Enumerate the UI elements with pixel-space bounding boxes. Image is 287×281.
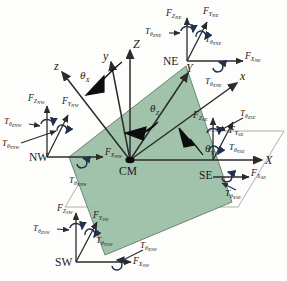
theta-X-label: θX: [80, 69, 90, 83]
torque-T_thetaX_NE-arc: [213, 62, 223, 72]
global-axis-X-label: X: [264, 153, 273, 167]
corner-label-NW: NW: [29, 151, 48, 163]
corner-label-SW: SW: [55, 256, 72, 268]
body-axis-y-label: y: [102, 49, 109, 63]
torque-T_thetaZ_SW-leader: [57, 229, 69, 230]
torque-T_thetaY_NE-label: TθYNE: [205, 34, 221, 46]
force-F_X_NE-label: FXNE: [244, 51, 261, 63]
torque-T_thetaZ_SW-label: TθZSW: [33, 223, 51, 235]
force-F_Z_SW-label: FZSW: [56, 203, 74, 215]
force-F_X_SW-label: FXSW: [132, 256, 150, 268]
torque-T_thetaZ_NE-label: TθZNE: [145, 26, 161, 38]
torque-T_thetaX_NE-label: TθXNE: [205, 76, 222, 88]
body-axis-z-label: z: [53, 59, 59, 73]
figure-container: Z X Y y z x CM θX θZ θY FZNW FYNW FXNW: [0, 0, 287, 281]
torque-T_thetaY_NW-leader: [21, 131, 56, 143]
global-axis-Y-label: Y: [186, 61, 194, 75]
corner-label-SE: SE: [199, 169, 212, 181]
body-axis-x-label: x: [239, 69, 246, 83]
rigid-body-diagram: Z X Y y z x CM θX θZ θY FZNW FYNW FXNW: [0, 0, 287, 281]
force-F_Y_NW-label: FYNW: [61, 96, 79, 108]
torque-T_thetaY_NW-label: TθYNW: [2, 138, 20, 150]
torque-T_thetaZ_NW-leader: [29, 124, 40, 126]
center-of-mass-dot: [125, 157, 134, 163]
corner-label-NE: NE: [163, 55, 178, 67]
torque-T_thetaZ_NW-label: TθZNW: [4, 116, 22, 128]
torque-T_thetaY_SE-label: TθYSE: [229, 142, 245, 154]
force-F_Y_NE-label: FYNE: [202, 6, 218, 18]
force-F_X_SE-label: FXSE: [250, 168, 266, 180]
force-F_Z_NW-label: FZNW: [27, 93, 45, 105]
force-F_Y_NW-arrow: [47, 115, 68, 157]
force-F_Y_SW-arrow: [76, 222, 97, 262]
global-axis-Z-label: Z: [133, 37, 140, 51]
force-F_Z_NE-label: FZNE: [165, 8, 181, 20]
center-of-mass-label: CM: [119, 165, 137, 177]
